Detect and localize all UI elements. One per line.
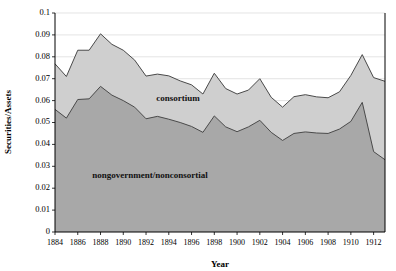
x-tick-label: 1912 bbox=[366, 238, 382, 247]
x-tick-label: 1896 bbox=[184, 238, 200, 247]
x-axis-title: Year bbox=[211, 259, 229, 269]
y-tick-label: 0.07 bbox=[35, 73, 50, 83]
x-tick-label: 1900 bbox=[229, 238, 245, 247]
x-tick-label: 1910 bbox=[343, 238, 359, 247]
y-tick-label: 0.06 bbox=[35, 95, 50, 105]
y-tick-label: 0.02 bbox=[35, 182, 50, 192]
y-tick-label: 0.04 bbox=[35, 138, 51, 148]
x-tick-label: 1886 bbox=[70, 238, 86, 247]
y-tick-label: 0.08 bbox=[35, 51, 50, 61]
x-tick-label: 1892 bbox=[138, 238, 154, 247]
y-tick-label: 0.1 bbox=[39, 7, 50, 17]
x-tick-label: 1898 bbox=[206, 238, 222, 247]
x-tick-label: 1906 bbox=[297, 238, 313, 247]
y-tick-label: 0.01 bbox=[35, 204, 50, 214]
y-axis-title: Securities/Assets bbox=[3, 90, 13, 154]
y-tick-label: 0.03 bbox=[35, 160, 50, 170]
y-tick-label: 0.05 bbox=[35, 116, 50, 126]
x-tick-label: 1894 bbox=[161, 238, 177, 247]
series-label-consortium: consortium bbox=[156, 93, 200, 103]
series-label-nongovernment: nongovernment/nonconsortial bbox=[92, 170, 208, 180]
x-tick-label: 1904 bbox=[275, 238, 291, 247]
x-tick-label: 1890 bbox=[115, 238, 131, 247]
x-tick-label: 1888 bbox=[93, 238, 109, 247]
x-tick-label: 1884 bbox=[47, 238, 63, 247]
y-tick-label: 0.09 bbox=[35, 29, 50, 39]
x-tick-label: 1908 bbox=[320, 238, 336, 247]
x-tick-label: 1902 bbox=[252, 238, 268, 247]
chart-container: 00.010.020.030.040.050.060.070.080.090.1… bbox=[0, 0, 396, 271]
securities-assets-area-chart: 00.010.020.030.040.050.060.070.080.090.1… bbox=[0, 0, 396, 271]
y-tick-label: 0 bbox=[46, 226, 50, 236]
